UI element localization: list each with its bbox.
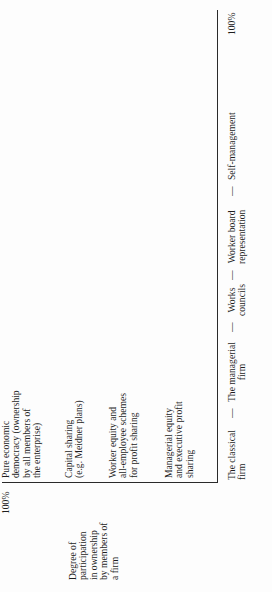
x-category-works-councils: Works councils [227,284,248,316]
y-category-pure-economic-democracy: Pure economic democracy (ownership by al… [1,390,43,478]
y-category-capital-sharing: Capital sharing (e.g. Meidner plans) [64,400,85,478]
vertical-axis-line [2,482,218,483]
x-connector-dash: — [227,322,237,332]
x-axis-max-label: 100% [227,13,237,35]
x-connector-dash: — [227,270,237,280]
y-category-managerial-equity: Managerial equity and executive profit s… [164,401,195,478]
x-category-managerial-firm: The managerial firm [227,342,248,402]
participation-diagram: 100% Degree of participation in ownershi… [0,0,272,592]
y-axis-max-label: 100% [1,492,11,514]
x-category-worker-board-representation: Worker board representation [227,210,248,264]
x-category-classical-firm: The classical firm [227,430,248,480]
x-connector-dash: — [227,186,237,196]
horizontal-axis-line [217,10,218,482]
y-axis-title: Degree of participation in ownership by … [68,522,120,580]
page: 100% Degree of participation in ownershi… [0,0,272,592]
y-category-worker-equity: Worker equity and all-employee schemes f… [108,393,139,478]
x-category-self-management: Self-management [227,112,237,180]
x-connector-dash: — [227,408,237,418]
